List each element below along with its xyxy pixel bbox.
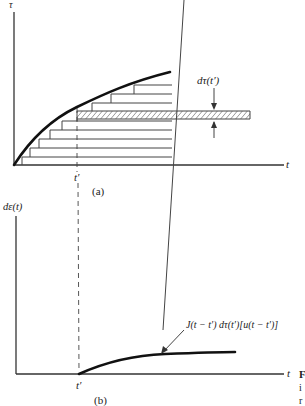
t-prime-guide-connector xyxy=(78,183,79,372)
t-prime-label-b: t′ xyxy=(76,379,82,391)
caption-a: (a) xyxy=(92,185,105,198)
creep-superposition-diagram: τ t t′ dτ(t′) (a) dε(t) t t′ J(t − t′) d… xyxy=(0,0,305,406)
svg-text:i: i xyxy=(299,382,302,393)
svg-text:F: F xyxy=(299,368,305,380)
t-axis-label-b: t xyxy=(287,367,291,379)
hatched-increment-band xyxy=(77,111,250,119)
clipped-side-text: F i r xyxy=(299,368,305,406)
d-epsilon-axis-label: dε(t) xyxy=(3,201,23,213)
panel-a: τ t t′ dτ(t′) (a) xyxy=(9,0,290,198)
tau-axis-label: τ xyxy=(9,0,13,10)
d-tau-label: dτ(t′) xyxy=(197,74,220,87)
t-prime-label-a: t′ xyxy=(74,171,80,183)
panel-b: dε(t) t t′ J(t − t′) dτ(t′)[u(t − t′)] (… xyxy=(3,0,291,406)
arrow-up-icon xyxy=(211,121,217,128)
creep-annotation: J(t − t′) dτ(t′)[u(t − t′)] xyxy=(186,319,278,331)
caption-b: (b) xyxy=(94,394,107,406)
t-axis-label-a: t xyxy=(286,158,290,170)
arrow-down-icon xyxy=(211,103,217,110)
creep-response-curve xyxy=(79,352,235,374)
svg-text:r: r xyxy=(299,395,303,406)
